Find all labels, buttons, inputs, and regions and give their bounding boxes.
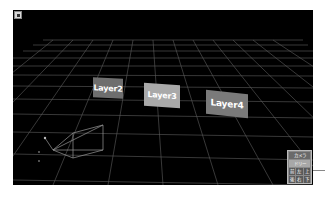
- camera-forward-button[interactable]: 前: [289, 168, 295, 175]
- camera-right-button[interactable]: 右: [296, 176, 302, 183]
- camera-back-button[interactable]: 後: [289, 176, 295, 183]
- layer-card-layer2[interactable]: Layer2: [93, 77, 123, 99]
- layer-label: Layer3: [147, 90, 176, 101]
- camera-mode-dolly[interactable]: ドリー: [289, 160, 310, 167]
- camera-down-button[interactable]: 下: [304, 176, 310, 183]
- menu-icon: [17, 14, 20, 17]
- camera-title: カメラ: [289, 152, 310, 159]
- layer-card-layer3[interactable]: Layer3: [144, 83, 180, 109]
- camera-frustum: [45, 125, 103, 158]
- camera-left-button[interactable]: 左: [296, 168, 302, 175]
- layer-label: Layer4: [210, 97, 243, 110]
- 3d-viewport[interactable]: Layer2 Layer3 Layer4 カメラ ドリー 前 左 上 後 右 下: [13, 10, 313, 185]
- layer-label: Layer2: [93, 83, 122, 94]
- camera-up-button[interactable]: 上: [304, 168, 310, 175]
- callout-line: [313, 170, 325, 171]
- camera-control-widget: カメラ ドリー 前 左 上 後 右 下: [287, 150, 312, 184]
- layer-card-layer4[interactable]: Layer4: [206, 90, 248, 118]
- viewport-menu-button[interactable]: [14, 11, 22, 19]
